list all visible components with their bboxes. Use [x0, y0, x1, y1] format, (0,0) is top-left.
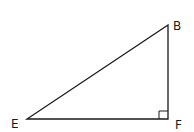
triangle-bef — [27, 25, 168, 119]
triangle-diagram: B E F — [0, 0, 194, 132]
vertex-label-b: B — [173, 19, 181, 33]
right-angle-marker — [159, 111, 168, 119]
vertex-label-f: F — [175, 118, 182, 132]
vertex-label-e: E — [11, 117, 19, 131]
